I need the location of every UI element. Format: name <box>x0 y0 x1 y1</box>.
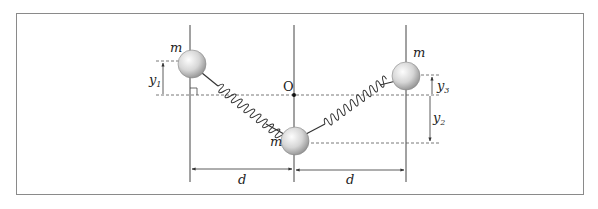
mass-center <box>281 127 309 155</box>
y2-label: y2 <box>432 110 445 127</box>
y1-label: y1 <box>148 72 161 89</box>
mass-center-label: m <box>270 134 282 149</box>
mass-right <box>392 62 420 90</box>
figure-frame <box>17 14 584 195</box>
mass-left-label: m <box>170 40 182 55</box>
d-left-label: d <box>238 172 246 187</box>
d-right-label: d <box>346 172 354 187</box>
mass-right-label: m <box>413 45 425 60</box>
spring-mass-diagram: y1 y3 y2 m m m O d d <box>0 0 598 209</box>
origin-label: O <box>283 79 294 94</box>
right-spring <box>306 76 396 134</box>
y3-label: y3 <box>436 78 449 95</box>
right-angle-marker <box>190 88 197 95</box>
left-spring <box>202 73 287 142</box>
